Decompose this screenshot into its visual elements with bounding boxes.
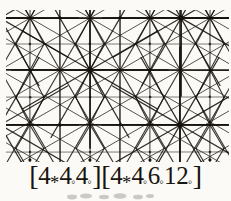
tiling-pattern-canvas [0, 0, 231, 201]
figure-background [0, 0, 231, 201]
tiling-figure: [4*4◦4◦][4*4◦6◦12◦] [0, 0, 231, 201]
